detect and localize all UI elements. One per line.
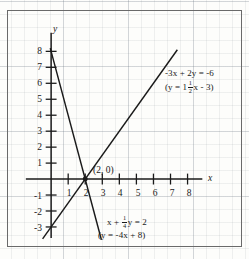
y-tick-label-5: 5 bbox=[28, 95, 42, 105]
line-descending-fraction-denominator: 4 bbox=[122, 222, 127, 230]
coordinate-plane bbox=[8, 11, 241, 246]
x-axis-label: x bbox=[208, 174, 212, 184]
line-rising-equation-label: -3x + 2y = -6 (y = 112x - 3) bbox=[165, 69, 214, 94]
x-tick-label-6: 6 bbox=[148, 189, 162, 199]
y-tick-label-neg2: -2 bbox=[22, 208, 42, 218]
x-tick-label-8: 8 bbox=[182, 189, 196, 199]
x-tick-label-7: 7 bbox=[165, 189, 179, 199]
y-tick-label-6: 6 bbox=[28, 79, 42, 89]
y-tick-label-3: 3 bbox=[28, 127, 42, 137]
y-tick-label-8: 8 bbox=[28, 47, 42, 57]
x-tick-label-5: 5 bbox=[131, 189, 145, 199]
line-descending-slope-intercept-form: (y = -4x + 8) bbox=[98, 231, 147, 240]
line-rising bbox=[43, 50, 178, 239]
line-descending bbox=[50, 48, 101, 240]
y-tick-label-neg1: -1 bbox=[22, 192, 42, 202]
line-descending-fraction: 14 bbox=[122, 215, 127, 229]
y-tick-label-1: 1 bbox=[28, 159, 42, 169]
x-tick-label-1: 1 bbox=[62, 189, 76, 199]
y-axis-label: y bbox=[53, 25, 57, 35]
intersection-point-label: (2, 0) bbox=[93, 166, 114, 176]
line-descending-std-prefix: x + bbox=[107, 217, 121, 227]
line-rising-standard-form: -3x + 2y = -6 bbox=[165, 69, 214, 78]
y-tick-label-neg3: -3 bbox=[22, 224, 42, 234]
line-descending-std-suffix: y = 2 bbox=[128, 217, 147, 227]
x-tick-label-3: 3 bbox=[96, 189, 110, 199]
x-tick-label-2: 2 bbox=[79, 189, 93, 199]
figure-frame: y x 8 7 6 5 4 3 2 1 -1 -2 -3 1 2 3 4 5 6… bbox=[7, 10, 242, 247]
y-tick-label-7: 7 bbox=[28, 63, 42, 73]
line-rising-slope-intercept-form: (y = 112x - 3) bbox=[165, 80, 214, 94]
line-descending-equation-label: x + 14y = 2 (y = -4x + 8) bbox=[107, 215, 147, 240]
intersection-point-marker bbox=[83, 177, 88, 182]
x-tick-label-4: 4 bbox=[113, 189, 127, 199]
line-rising-si-suffix: x - 3) bbox=[193, 82, 213, 92]
y-tick-label-2: 2 bbox=[28, 143, 42, 153]
line-rising-si-prefix: (y = 1 bbox=[165, 82, 187, 92]
y-tick-label-4: 4 bbox=[28, 111, 42, 121]
line-descending-standard-form: x + 14y = 2 bbox=[107, 215, 147, 229]
